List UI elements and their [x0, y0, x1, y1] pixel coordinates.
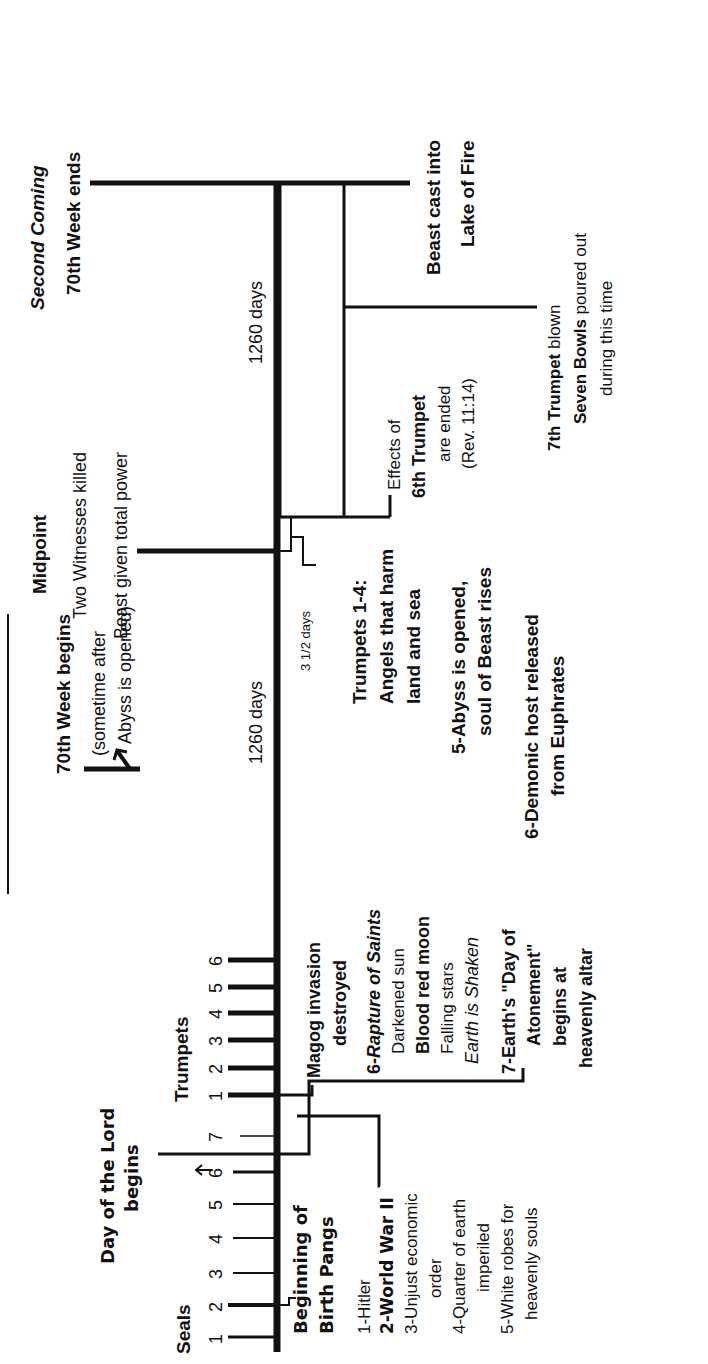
first-half-duration: 1260 days	[246, 681, 266, 764]
seal-number: 3	[206, 1269, 226, 1279]
witnesses-duration: 3 1/2 days	[298, 611, 313, 671]
seal-number: 4	[206, 1234, 226, 1244]
magog-connector	[277, 1085, 312, 1095]
beast-cast-label: Beast cast into	[423, 140, 444, 275]
timeline-diagram: Seals 1 2 3 4 5 6 7 Day of the Lord begi…	[0, 0, 708, 1364]
seal-event: imperiled	[474, 1223, 493, 1292]
magog-label: Magog invasion	[304, 942, 324, 1078]
day-of-lord-label-2: begins	[121, 1144, 142, 1212]
seal-number: 7	[206, 1132, 226, 1142]
trumpet-number: 2	[206, 1064, 226, 1074]
seal-number: 5	[206, 1200, 226, 1210]
trumpet-event: Trumpets 1-4:	[349, 579, 370, 704]
trumpet-number: 5	[206, 983, 226, 993]
sixth-seal-line: Blood red moon	[413, 916, 433, 1054]
sixth-trumpet-ended-line: are ended	[435, 385, 454, 462]
seven-bowls-bold: Seven Bowls	[571, 319, 590, 424]
trumpet-number: 6	[206, 956, 226, 966]
rotated-timeline-canvas: Seals 1 2 3 4 5 6 7 Day of the Lord begi…	[0, 0, 708, 1364]
witnesses-bracket	[291, 537, 303, 566]
sixth-seal-bracket	[277, 1068, 523, 1154]
trumpet-event: 6-Demonic host released	[521, 614, 542, 839]
seventh-seal-line: 7-Earth's "Day of	[499, 928, 519, 1074]
trumpet-event: from Euphrates	[547, 656, 568, 796]
day-of-lord-label: Day of the Lord	[97, 1108, 118, 1265]
seventh-seal-line: Atonement"	[524, 943, 544, 1046]
trumpet-event: 5-Abyss is opened,	[448, 581, 469, 754]
sixth-trumpet-ended-bold: 6th Trumpet	[409, 395, 429, 498]
midpoint-line: Beast given total power	[111, 452, 131, 639]
trumpet-event: land and sea	[403, 588, 424, 704]
trumpet-number: 4	[206, 1009, 226, 1019]
seventh-trumpet-bold: 7th Trumpet	[545, 353, 564, 451]
birth-pangs-label-2: Birth Pangs	[316, 1216, 337, 1334]
second-half-duration: 1260 days	[246, 281, 266, 364]
second-coming-title: Second Coming	[27, 165, 48, 310]
week-begins-title: 70th Week begins	[53, 614, 74, 774]
birth-pangs-label: Beginning of	[290, 1205, 311, 1334]
seal-event: 1-Hitler	[355, 1279, 374, 1334]
seal-event: 5-White robes for	[498, 1203, 517, 1334]
trumpet-number: 1	[206, 1091, 226, 1101]
seven-bowls-label: Seven Bowls poured out	[571, 233, 590, 424]
seal-event: heavenly souls	[522, 1208, 541, 1320]
seals-label: Seals	[173, 1304, 194, 1354]
week-begins-note: (sometime after	[89, 631, 109, 756]
seven-bowls-rest: poured out	[571, 233, 590, 319]
seal-event: 4-Quarter of earth	[450, 1199, 469, 1334]
seventh-trumpet-note: during this time	[597, 281, 616, 396]
sixth-seal-head: 6-	[364, 1058, 384, 1074]
sixth-seal-title: 6-Rapture of Saints	[364, 909, 384, 1074]
seal-ticks	[228, 1136, 277, 1337]
seal-number: 6	[206, 1168, 226, 1178]
earth-shaken-label: Earth is Shaken	[462, 937, 482, 1064]
sixth-trumpet-ended-ref: (Rev. 11:14)	[459, 378, 478, 469]
midpoint-line: Two Witnesses killed	[70, 452, 90, 619]
rapture-label: Rapture of Saints	[364, 909, 384, 1058]
beast-cast-label-2: Lake of Fire	[457, 140, 478, 247]
seal-event: 3-Unjust economic	[402, 1193, 421, 1334]
trumpet-ticks	[228, 960, 277, 1095]
seventh-seal-line: begins at	[550, 967, 570, 1046]
trumpet-event: soul of Beast rises	[474, 567, 495, 736]
seal-number: 1	[206, 1334, 226, 1344]
sixth-seal-line: Falling stars	[438, 962, 457, 1054]
sixth-seal-line: Darkened sun	[389, 948, 408, 1054]
seventh-trumpet-rest: blown	[545, 305, 564, 354]
seal-number: 2	[206, 1302, 226, 1312]
seventh-trumpet-label: 7th Trumpet blown	[545, 305, 564, 451]
midpoint-title: Midpoint	[29, 514, 50, 594]
seventh-seal-line: heavenly altar	[576, 948, 596, 1068]
trumpet-event: Angels that harm	[376, 549, 397, 704]
seal-event: 2-World War II	[377, 1197, 397, 1334]
magog-label-2: destroyed	[330, 960, 350, 1046]
second-coming-subtitle: 70th Week ends	[63, 152, 84, 295]
trumpets-label: Trumpets	[171, 1016, 192, 1102]
sixth-trumpet-ended-pre: Effects of	[385, 419, 404, 490]
seal-event: order	[426, 1258, 445, 1298]
trumpet-number: 3	[206, 1036, 226, 1046]
